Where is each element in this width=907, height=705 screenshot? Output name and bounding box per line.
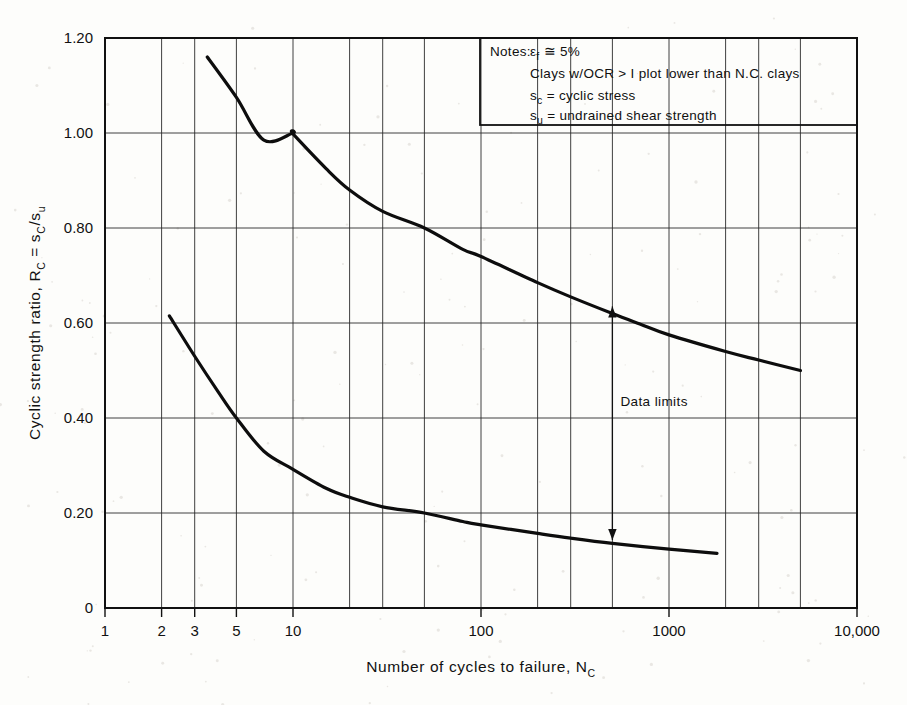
paper-speckle: [819, 642, 821, 644]
paper-speckle: [54, 412, 56, 414]
paper-speckle: [240, 192, 242, 194]
paper-speckle: [204, 546, 206, 548]
paper-speckle: [814, 290, 816, 292]
x-axis-tick-label: 100: [468, 622, 493, 639]
paper-speckle: [627, 27, 629, 29]
paper-speckle: [451, 253, 453, 255]
data-limits-label: Data limits: [620, 394, 687, 409]
paper-speckle: [590, 254, 591, 255]
paper-speckle: [674, 22, 676, 24]
paper-speckle: [773, 17, 775, 19]
paper-speckle: [602, 676, 605, 679]
paper-speckle: [95, 604, 97, 606]
paper-speckle: [440, 278, 442, 280]
paper-speckle: [562, 570, 565, 573]
x-axis-tick-label: 5: [232, 622, 240, 639]
y-axis-title-sub3: u: [35, 206, 47, 212]
paper-speckle: [339, 384, 340, 385]
paper-speckle: [763, 640, 765, 642]
paper-speckle: [807, 659, 810, 662]
paper-speckle: [149, 278, 150, 279]
paper-speckle: [775, 290, 778, 293]
paper-speckle: [841, 235, 843, 237]
paper-speckle: [363, 144, 365, 146]
paper-speckle: [598, 170, 600, 172]
paper-speckle: [787, 574, 790, 577]
paper-speckle: [795, 49, 796, 50]
paper-speckle: [92, 645, 94, 647]
y-axis-title-sub2: C: [35, 226, 47, 234]
paper-speckle: [437, 565, 440, 568]
paper-speckle: [539, 481, 541, 483]
paper-speckle: [87, 650, 88, 651]
paper-speckle: [182, 350, 184, 352]
paper-speckle: [437, 628, 440, 631]
paper-speckle: [806, 151, 808, 153]
paper-speckle: [35, 84, 38, 87]
note-strain-body: ≅ 5%: [540, 44, 581, 59]
paper-speckle: [626, 411, 628, 413]
paper-speckle: [464, 540, 466, 542]
paper-speckle: [501, 454, 504, 457]
paper-speckle: [575, 341, 577, 343]
paper-speckle: [780, 273, 783, 276]
x-axis-tick-label: 10: [285, 622, 302, 639]
paper-speckle: [838, 253, 839, 254]
paper-speckle: [483, 238, 486, 241]
paper-speckle: [305, 578, 308, 581]
notes-label: Notes:: [490, 44, 531, 59]
paper-speckle: [697, 301, 698, 302]
paper-speckle: [293, 399, 295, 401]
paper-speckle: [82, 300, 84, 302]
paper-speckle: [346, 223, 348, 225]
x-axis-tick-label: 2: [157, 622, 165, 639]
paper-speckle: [109, 332, 111, 334]
paper-speckle: [342, 263, 344, 265]
paper-speckle: [120, 496, 123, 499]
paper-speckle: [734, 472, 736, 474]
paper-speckle: [458, 103, 460, 105]
y-axis-tick-label: 0.20: [64, 504, 93, 521]
x-axis-tick-label: 3: [191, 622, 199, 639]
x-axis-tick-label: 10,000: [834, 622, 880, 639]
y-axis-title-part2: = s: [26, 234, 43, 262]
paper-speckle: [499, 640, 502, 643]
paper-speckle: [315, 571, 317, 573]
paper-speckle: [523, 319, 526, 322]
note-sc-body: = cyclic stress: [543, 88, 636, 103]
paper-speckle: [832, 276, 835, 279]
paper-speckle: [749, 461, 752, 464]
paper-speckle: [254, 639, 255, 640]
paper-speckle: [106, 103, 109, 106]
paper-speckle: [403, 291, 405, 293]
paper-speckle: [386, 85, 388, 87]
paper-speckle: [677, 268, 679, 270]
paper-speckle: [254, 67, 256, 69]
x-axis-tick-label: 1000: [652, 622, 685, 639]
paper-speckle: [816, 233, 817, 234]
paper-speckle: [56, 491, 58, 493]
paper-speckle: [376, 115, 379, 118]
y-axis-tick-label: 0.40: [64, 409, 93, 426]
paper-speckle: [694, 180, 697, 183]
paper-speckle: [369, 702, 371, 704]
paper-speckle: [791, 591, 794, 594]
y-axis-title-sub1: C: [35, 262, 47, 270]
paper-speckle: [780, 516, 783, 519]
y-axis-tick-label: 0.60: [64, 314, 93, 331]
paper-speckle: [622, 630, 624, 632]
paper-speckle: [837, 193, 839, 195]
paper-speckle: [161, 662, 164, 665]
paper-speckle: [863, 449, 865, 451]
paper-speckle: [874, 214, 876, 216]
paper-speckle: [779, 587, 781, 589]
paper-speckle: [294, 192, 295, 193]
paper-speckle: [421, 172, 423, 174]
paper-speckle: [402, 650, 405, 653]
paper-speckle: [49, 324, 52, 327]
paper-speckle: [903, 456, 905, 458]
y-axis-title-part1: Cyclic strength ratio, R: [26, 270, 43, 440]
chart-figure: 123510100100010,000 00.200.400.600.801.0…: [0, 0, 907, 705]
y-axis-tick-label: 1.20: [64, 29, 93, 46]
paper-speckle: [641, 250, 643, 252]
